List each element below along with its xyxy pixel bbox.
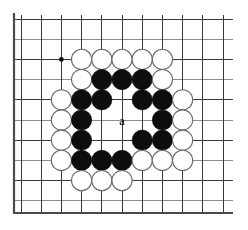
black-stone [132, 90, 152, 110]
white-stone [173, 150, 193, 170]
black-stone [152, 130, 172, 150]
white-stone [92, 49, 112, 69]
black-stone [132, 130, 152, 150]
black-stone [132, 70, 152, 90]
white-stone [173, 90, 193, 110]
white-stone [152, 70, 172, 90]
white-stone [112, 171, 132, 191]
white-stone [173, 110, 193, 130]
white-stone [51, 130, 71, 150]
white-stone [152, 150, 172, 170]
black-stone [72, 150, 92, 170]
white-stone [72, 70, 92, 90]
black-stone [112, 150, 132, 170]
go-board-diagram: a [0, 0, 248, 230]
white-stone [51, 110, 71, 130]
white-stone [152, 49, 172, 69]
black-stone [92, 150, 112, 170]
black-stone [152, 90, 172, 110]
black-stone [92, 90, 112, 110]
point-label: a [119, 114, 125, 128]
white-stone [72, 49, 92, 69]
white-stone [132, 49, 152, 69]
goban-svg: a [0, 0, 248, 230]
white-stone [51, 90, 71, 110]
white-stone [51, 150, 71, 170]
white-stone [132, 150, 152, 170]
white-stone [112, 49, 132, 69]
white-stone [92, 171, 112, 191]
white-stone [173, 130, 193, 150]
black-stone [72, 90, 92, 110]
black-stone [72, 130, 92, 150]
point-labels: a [119, 114, 125, 128]
white-stone [72, 171, 92, 191]
black-stone [92, 70, 112, 90]
star-point [59, 57, 64, 62]
black-stone [112, 70, 132, 90]
black-stone [72, 110, 92, 130]
black-stone [152, 110, 172, 130]
